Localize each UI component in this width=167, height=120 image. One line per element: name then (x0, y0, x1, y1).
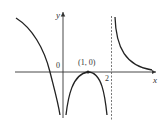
function-graph: y x 0 (1, 0) 2 (0, 0, 167, 120)
tangent-point (86, 70, 89, 73)
right-branch-curve (115, 17, 152, 70)
asymptote-label: 2 (105, 74, 109, 83)
point-label: (1, 0) (78, 58, 96, 67)
graph-canvas: y x 0 (1, 0) 2 (0, 0, 167, 120)
x-axis-label: x (152, 75, 157, 85)
left-branch-curve (16, 18, 60, 115)
middle-branch-curve (66, 72, 107, 115)
origin-label: 0 (56, 61, 60, 70)
y-axis-label: y (55, 10, 60, 20)
